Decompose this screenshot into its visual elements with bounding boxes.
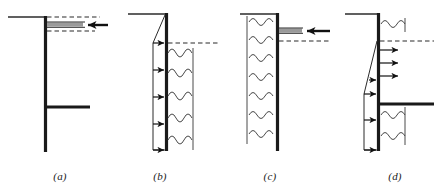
- figure-container: (a) (b) (c) (d): [0, 0, 440, 196]
- panel-c-wave-row-4: [249, 74, 273, 81]
- panel-b-wave-row-3: [168, 92, 192, 100]
- panel-d-soil-waves: [381, 18, 405, 145]
- panel-c-wave-row-3: [249, 55, 273, 62]
- panel-b-pressure-outline: [153, 15, 165, 150]
- retaining-wall-diagram-svg: [0, 0, 440, 196]
- panel-b-pressure-arrows: [153, 43, 164, 150]
- panel-d-wave-row-2: [381, 112, 405, 119]
- panel-d-wave-row-3: [381, 133, 405, 140]
- panel-d-outward-arrows: [380, 50, 398, 76]
- panel-c-wave-row-5: [249, 93, 273, 100]
- panel-c-wave-row-6: [249, 112, 273, 119]
- panel-b: [128, 13, 220, 151]
- panel-b-caption: (b): [140, 170, 180, 182]
- panel-a: [8, 16, 108, 152]
- panel-c-wave-row-1: [249, 19, 273, 26]
- panel-b-soil-waves: [168, 48, 193, 150]
- panel-d-pressure-outline: [364, 41, 377, 150]
- panel-a-caption: (a): [40, 170, 80, 182]
- panel-c-wave-row-7: [249, 131, 273, 138]
- panel-c-wave-row-2: [249, 37, 273, 44]
- panel-b-wave-row-5: [168, 136, 192, 144]
- panel-d-caption: (d): [375, 170, 415, 182]
- panel-c: [240, 13, 330, 151]
- panel-d: [345, 13, 434, 151]
- panel-b-wave-row-1: [168, 49, 192, 57]
- panel-c-soil-waves: [247, 16, 273, 144]
- panel-d-pressure-arrows: [364, 80, 376, 150]
- panel-d-wave-row-1: [381, 21, 405, 28]
- panel-c-caption: (c): [250, 170, 290, 182]
- panel-b-wave-row-4: [168, 114, 192, 122]
- panel-b-wave-row-2: [168, 69, 192, 77]
